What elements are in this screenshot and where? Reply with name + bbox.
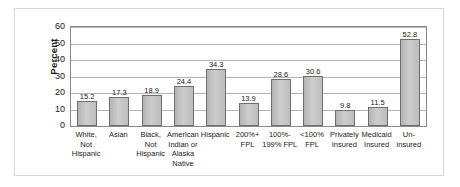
bar-value-label: 17.3 (112, 88, 127, 97)
bar (271, 79, 291, 126)
plot-area: 15.217.318.924.434.313.928.630.69.811.55… (70, 26, 427, 127)
figure-frame: Percent 0102030405060 15.217.318.924.434… (14, 8, 444, 176)
x-axis-tick-labels: White, Not HispanicAsianBlack, Not Hispa… (70, 130, 427, 182)
y-axis-tick-label: 60 (39, 21, 65, 31)
y-axis-tick-label: 30 (39, 71, 65, 81)
y-axis-tick-labels: 0102030405060 (35, 26, 65, 127)
gridline (71, 60, 426, 61)
bar-value-label: 24.4 (177, 77, 192, 86)
bar (400, 39, 420, 126)
gridline (71, 44, 426, 45)
bar-value-label: 18.9 (144, 86, 159, 95)
y-axis-tick-label: 20 (39, 87, 65, 97)
chart-screenshot: Percent 0102030405060 15.217.318.924.434… (0, 0, 460, 187)
x-axis-tick-label: Un- insured (388, 130, 430, 149)
bar-value-label: 52.8 (403, 30, 418, 39)
y-axis-tick-label: 10 (39, 104, 65, 114)
gridline (71, 77, 426, 78)
y-axis-tick-label: 40 (39, 54, 65, 64)
bar (239, 103, 259, 126)
bar-value-label: 30.6 (306, 67, 321, 76)
bar (368, 107, 388, 126)
bar-value-label: 15.2 (80, 92, 95, 101)
y-axis-tick-label: 50 (39, 38, 65, 48)
bar-value-label: 34.3 (209, 60, 224, 69)
bar-value-label: 28.6 (273, 70, 288, 79)
bar-value-label: 13.9 (241, 94, 256, 103)
gridline (71, 27, 426, 28)
bar (109, 97, 129, 126)
bar (142, 95, 162, 126)
bar-value-label: 11.5 (371, 98, 385, 107)
y-axis-tick-label: 0 (39, 120, 65, 130)
bar (77, 101, 97, 126)
bar-value-label: 9.8 (340, 101, 350, 110)
bar (335, 110, 355, 126)
bar (206, 69, 226, 126)
bar (174, 86, 194, 126)
bar (303, 76, 323, 126)
